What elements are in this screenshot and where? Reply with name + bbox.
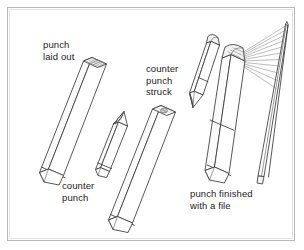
label-counter-punch-struck: counter punch struck: [146, 63, 178, 98]
file-tang: [257, 176, 264, 184]
file-tip: [286, 22, 289, 25]
figure-root: .ln { fill:none; stroke:#3a3a3a; stroke-…: [0, 0, 304, 250]
label-counter-punch: counter punch: [62, 180, 94, 203]
punch-blank-object: [40, 58, 107, 186]
file-tool: [244, 22, 289, 185]
file-blade-centre-edge: [262, 27, 287, 177]
label-punch-laid-out: punch laid out: [43, 39, 74, 62]
punch-making-illustration: .ln { fill:none; stroke:#3a3a3a; stroke-…: [0, 0, 304, 250]
label-punch-finished: punch finished with a file: [190, 188, 253, 211]
struck-impression-mark: [160, 108, 167, 112]
counter-punch-small-object: [96, 112, 128, 178]
counter-punch-angled-object: [190, 34, 220, 107]
file-blade: [258, 25, 288, 177]
